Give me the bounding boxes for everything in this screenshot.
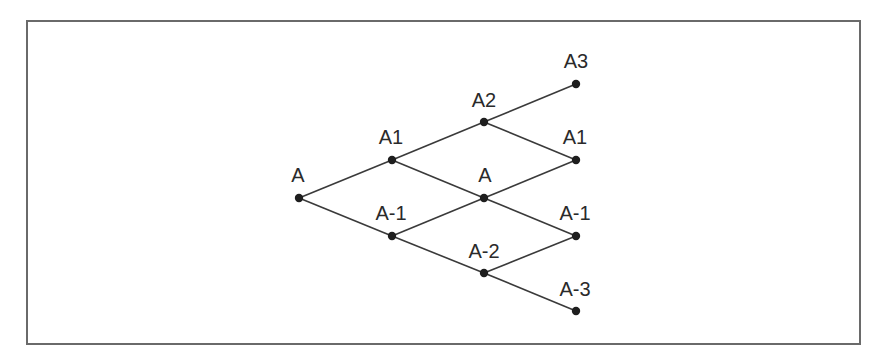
node-label-n3a: A3 [564, 50, 588, 72]
node-label-n1u: A1 [379, 126, 403, 148]
node-dot-n3b [572, 156, 580, 164]
node-dot-n3a [572, 80, 580, 88]
node-dot-n3c [572, 232, 580, 240]
tree-labels: A A1 A-1 A2 A A-2 A3 A1 A-1 A-3 [291, 50, 590, 300]
edge-n2m-n3b [484, 160, 576, 198]
node-label-n2d: A-2 [468, 240, 499, 262]
node-label-n3c: A-1 [559, 202, 590, 224]
edge-n0-n1u [299, 160, 392, 198]
tree-edges [299, 84, 576, 311]
edge-n1u-n2u [392, 122, 484, 160]
tree-nodes [295, 80, 580, 315]
node-label-n2u: A2 [472, 89, 496, 111]
node-dot-n1u [388, 156, 396, 164]
node-label-n3d: A-3 [559, 278, 590, 300]
node-label-n0: A [291, 164, 305, 186]
edge-n2u-n3a [484, 84, 576, 122]
edge-n1u-n2m [392, 160, 484, 198]
node-label-n1d: A-1 [375, 202, 406, 224]
node-dot-n3d [572, 307, 580, 315]
binomial-tree-diagram: A A1 A-1 A2 A A-2 A3 A1 A-1 A-3 [0, 0, 896, 358]
node-label-n3b: A1 [563, 126, 587, 148]
node-dot-n2u [480, 118, 488, 126]
node-dot-n1d [388, 232, 396, 240]
node-dot-n0 [295, 194, 303, 202]
node-dot-n2m [480, 194, 488, 202]
node-dot-n2d [480, 269, 488, 277]
node-label-n2m: A [478, 164, 492, 186]
